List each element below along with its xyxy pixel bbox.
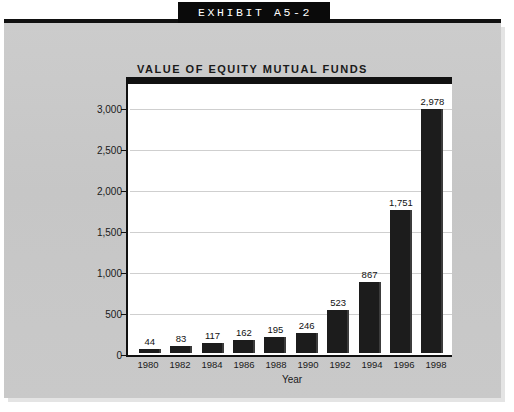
chart-title: VALUE OF EQUITY MUTUAL FUNDS bbox=[4, 63, 501, 75]
bar-slot: 523 bbox=[322, 93, 353, 353]
bar-value-label: 117 bbox=[205, 330, 220, 341]
x-tick-label: 1984 bbox=[196, 359, 228, 370]
figure-panel: VALUE OF EQUITY MUTUAL FUNDS Value of st… bbox=[4, 23, 501, 398]
bar-slot: 1,751 bbox=[385, 93, 416, 353]
x-tick-label: 1994 bbox=[356, 359, 388, 370]
x-axis-title: Year bbox=[128, 374, 456, 385]
y-tick-mark bbox=[121, 109, 126, 110]
bar-slot: 867 bbox=[354, 93, 385, 353]
bar-value-label: 246 bbox=[299, 320, 315, 331]
bar-slot: 44 bbox=[134, 93, 165, 353]
bar-value-label: 1,751 bbox=[389, 197, 413, 208]
exhibit-banner: EXHIBIT A5-2 bbox=[178, 2, 330, 23]
bar-slot: 195 bbox=[260, 93, 291, 353]
plot-area: 44831171621952465238671,7512,978 bbox=[126, 84, 452, 357]
bar[interactable] bbox=[296, 333, 318, 353]
bar-value-label: 867 bbox=[362, 269, 378, 280]
bar-value-label: 523 bbox=[330, 297, 346, 308]
x-tick-label: 1996 bbox=[388, 359, 420, 370]
bar-slot: 117 bbox=[197, 93, 228, 353]
y-tick-label: 3,000 bbox=[97, 104, 122, 115]
bar-slot: 246 bbox=[291, 93, 322, 353]
x-tick-label: 1990 bbox=[292, 359, 324, 370]
bar[interactable] bbox=[421, 109, 443, 353]
y-tick-mark bbox=[121, 273, 126, 274]
bar[interactable] bbox=[139, 349, 161, 353]
plot-top-band bbox=[126, 77, 452, 84]
bar-value-label: 162 bbox=[236, 327, 252, 338]
x-axis-ticks: 1980198219841986198819901992199419961998 bbox=[128, 359, 456, 370]
bar[interactable] bbox=[202, 343, 224, 353]
x-tick-label: 1998 bbox=[420, 359, 452, 370]
y-tick-label: 500 bbox=[105, 309, 122, 320]
exhibit-banner-label: EXHIBIT A5-2 bbox=[196, 6, 312, 19]
bar[interactable] bbox=[264, 337, 286, 353]
bar[interactable] bbox=[390, 210, 412, 353]
panel-shadow-bottom bbox=[8, 398, 505, 402]
x-tick-label: 1982 bbox=[164, 359, 196, 370]
bar-slot: 162 bbox=[228, 93, 259, 353]
x-tick-label: 1988 bbox=[260, 359, 292, 370]
y-tick-mark bbox=[121, 232, 126, 233]
x-tick-label: 1980 bbox=[132, 359, 164, 370]
y-tick-mark bbox=[121, 191, 126, 192]
bar-value-label: 195 bbox=[267, 324, 283, 335]
y-tick-label: 1,000 bbox=[97, 268, 122, 279]
bar[interactable] bbox=[233, 340, 255, 353]
x-tick-label: 1986 bbox=[228, 359, 260, 370]
x-tick-label: 1992 bbox=[324, 359, 356, 370]
bar-series: 44831171621952465238671,7512,978 bbox=[130, 93, 452, 353]
bar-value-label: 2,978 bbox=[420, 96, 444, 107]
y-tick-mark bbox=[121, 355, 126, 356]
y-tick-mark bbox=[121, 150, 126, 151]
bar-value-label: 44 bbox=[144, 336, 155, 347]
bar[interactable] bbox=[359, 282, 381, 353]
bar[interactable] bbox=[170, 346, 192, 353]
plot-wrapper: Value of stocks owned through equity mut… bbox=[126, 75, 456, 365]
bar-slot: 2,978 bbox=[417, 93, 448, 353]
y-tick-label: 2,000 bbox=[97, 186, 122, 197]
bar-slot: 83 bbox=[165, 93, 196, 353]
y-tick-label: 2,500 bbox=[97, 145, 122, 156]
bar-value-label: 83 bbox=[176, 333, 187, 344]
y-tick-mark bbox=[121, 314, 126, 315]
figure-root: EXHIBIT A5-2 VALUE OF EQUITY MUTUAL FUND… bbox=[0, 0, 514, 412]
panel-shadow-right bbox=[501, 27, 505, 402]
bar[interactable] bbox=[327, 310, 349, 353]
y-tick-label: 1,500 bbox=[97, 227, 122, 238]
